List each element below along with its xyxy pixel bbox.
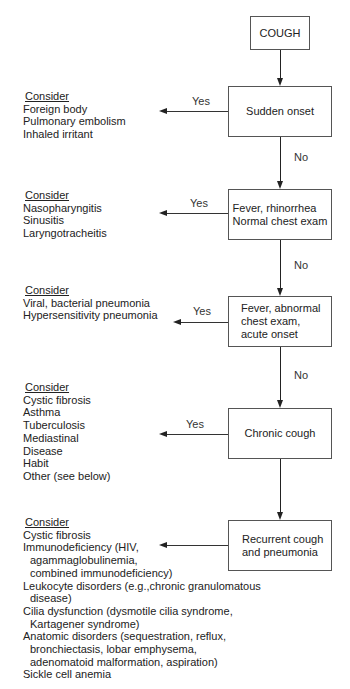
connector-sudden-to-fever: [280, 137, 281, 181]
consider-item: Kartagener syndrome): [23, 618, 261, 631]
consider-item: Viral, bacterial pneumonia: [23, 297, 158, 310]
arrow-down-icon: [277, 78, 283, 86]
consider-group-fever-abnormal: Consider Viral, bacterial pneumonia Hype…: [23, 284, 158, 322]
consider-item: Cilia dysfunction (dysmotile cilia syndr…: [23, 605, 261, 618]
arrow-down-icon: [277, 181, 283, 189]
consider-heading: Consider: [23, 189, 107, 202]
consider-item: Sinusitis: [23, 214, 107, 227]
arrow-down-icon: [277, 400, 283, 408]
node-chronic-cough-label: Chronic cough: [245, 427, 316, 440]
consider-item: Anatomic disorders (sequestration, reflu…: [23, 630, 261, 643]
connector-chronic-to-recurrent: [280, 459, 281, 512]
connector-yes-chronic: [166, 434, 228, 435]
consider-heading: Consider: [23, 90, 126, 103]
edge-label-yes: Yes: [193, 305, 211, 317]
consider-group-sudden-onset: Consider Foreign body Pulmonary embolism…: [23, 90, 126, 141]
consider-heading: Consider: [23, 284, 158, 297]
connector-yes-sudden: [166, 111, 228, 112]
connector-yes-rhinorrhea: [166, 213, 228, 214]
consider-heading: Consider: [23, 516, 261, 529]
consider-item: Cystic fibrosis: [23, 394, 110, 407]
consider-heading: Consider: [23, 381, 110, 394]
consider-item: Disease: [23, 445, 110, 458]
arrow-down-icon: [277, 512, 283, 520]
edge-label-no: No: [294, 151, 308, 163]
edge-label-yes: Yes: [190, 197, 208, 209]
consider-item: Sickle cell anemia: [23, 668, 261, 681]
arrow-left-icon: [159, 108, 167, 114]
consider-item: Foreign body: [23, 103, 126, 116]
consider-item: Inhaled irritant: [23, 128, 126, 141]
edge-label-no: No: [294, 369, 308, 381]
consider-item: Other (see below): [23, 470, 110, 483]
consider-item: combined immunodeficiency): [23, 567, 261, 580]
connector-rhinorrhea-to-abnormal: [280, 240, 281, 288]
edge-label-no: No: [294, 259, 308, 271]
connector-abnormal-to-chronic: [280, 347, 281, 400]
node-cough-label: COUGH: [260, 27, 301, 40]
consider-item: Nasopharyngitis: [23, 202, 107, 215]
consider-group-fever-rhinorrhea: Consider Nasopharyngitis Sinusitis Laryn…: [23, 189, 107, 240]
node-fever-abnormal-label: Fever, abnormal chest exam, acute onset: [241, 302, 320, 341]
node-cough: COUGH: [250, 16, 310, 50]
consider-group-chronic-cough: Consider Cystic fibrosis Asthma Tubercul…: [23, 381, 110, 483]
consider-item: Asthma: [23, 406, 110, 419]
arrow-left-icon: [159, 210, 167, 216]
consider-item: Mediastinal: [23, 432, 110, 445]
consider-item: Leukocyte disorders (e.g.,chronic granul…: [23, 580, 261, 593]
arrow-down-icon: [277, 288, 283, 296]
arrow-left-icon: [159, 431, 167, 437]
consider-item: disease): [23, 592, 261, 605]
consider-group-recurrent-cough: Consider Cystic fibrosis Immunodeficienc…: [23, 516, 261, 681]
node-fever-rhinorrhea-label: Fever, rhinorrhea Normal chest exam: [233, 202, 328, 228]
arrow-left-icon: [173, 319, 181, 325]
consider-item: Laryngotracheitis: [23, 227, 107, 240]
consider-item: Habit: [23, 457, 110, 470]
connector-cough-to-sudden: [280, 50, 281, 78]
consider-item: agammaglobulinemia,: [23, 554, 261, 567]
consider-item: Hypersensitivity pneumonia: [23, 309, 158, 322]
consider-item: Tuberculosis: [23, 419, 110, 432]
node-fever-abnormal: Fever, abnormal chest exam, acute onset: [228, 296, 332, 347]
edge-label-yes: Yes: [192, 95, 210, 107]
consider-item: adenomatoid malformation, aspiration): [23, 656, 261, 669]
consider-item: bronchiectasis, lobar emphysema,: [23, 643, 261, 656]
edge-label-yes: Yes: [186, 418, 204, 430]
consider-item: Cystic fibrosis: [23, 529, 261, 542]
connector-yes-abnormal: [180, 322, 228, 323]
consider-item: Pulmonary embolism: [23, 115, 126, 128]
node-sudden-onset: Sudden onset: [228, 86, 332, 137]
node-chronic-cough: Chronic cough: [228, 408, 332, 459]
consider-item: Immunodeficiency (HIV,: [23, 541, 261, 554]
node-sudden-onset-label: Sudden onset: [246, 105, 314, 118]
node-fever-rhinorrhea: Fever, rhinorrhea Normal chest exam: [228, 189, 332, 240]
